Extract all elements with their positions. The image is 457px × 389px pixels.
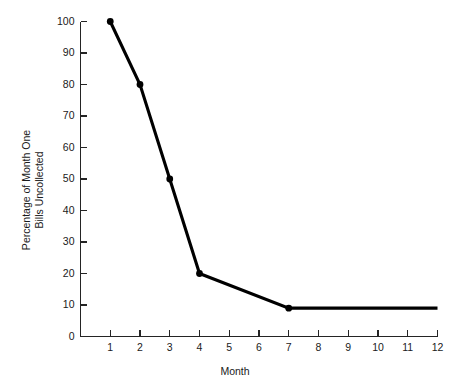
y-tick-label-10: 10	[63, 298, 75, 310]
x-tick-label-4: 4	[197, 341, 203, 353]
data-point-month-7	[285, 305, 292, 312]
data-point-month-2	[137, 81, 144, 88]
x-axis-title: Month	[220, 365, 249, 377]
x-tick-label-12: 12	[432, 341, 444, 353]
y-tick-label-70: 70	[63, 109, 75, 121]
x-tick-label-6: 6	[256, 341, 262, 353]
y-tick-label-100: 100	[57, 15, 75, 27]
data-point-month-4	[196, 270, 203, 277]
data-point-month-3	[166, 176, 173, 183]
y-tick-label-40: 40	[63, 204, 75, 216]
y-tick-label-20: 20	[63, 267, 75, 279]
y-tick-label-60: 60	[63, 141, 75, 153]
x-tick-label-7: 7	[286, 341, 292, 353]
y-tick-label-50: 50	[63, 172, 75, 184]
y-tick-label-30: 30	[63, 235, 75, 247]
x-tick-label-5: 5	[226, 341, 232, 353]
data-point-month-1	[107, 18, 114, 25]
x-tick-label-11: 11	[402, 341, 413, 353]
chart-canvas: 0102030405060708090100 123456789101112 M…	[0, 0, 457, 389]
x-tick-label-2: 2	[137, 341, 143, 353]
x-tick-label-3: 3	[167, 341, 173, 353]
y-tick-label-0: 0	[69, 330, 75, 342]
x-tick-label-9: 9	[345, 341, 351, 353]
x-tick-label-8: 8	[316, 341, 322, 353]
x-tick-label-10: 10	[372, 341, 384, 353]
y-tick-label-90: 90	[63, 46, 75, 58]
x-tick-label-1: 1	[107, 341, 113, 353]
y-tick-label-80: 80	[63, 78, 75, 90]
line-chart: 0102030405060708090100 123456789101112 M…	[0, 0, 457, 389]
y-axis-title-line-1: Percentage of Month One	[20, 130, 32, 250]
y-axis-title-line-2: Bills Uncollected	[33, 151, 45, 228]
